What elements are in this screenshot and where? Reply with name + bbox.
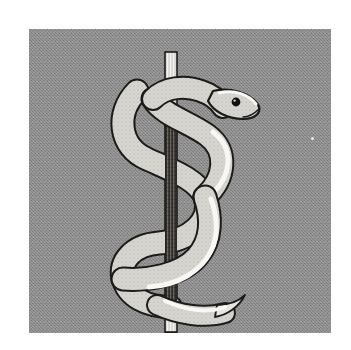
illustration-canvas — [0, 0, 351, 350]
illustration-panel — [29, 29, 331, 333]
rod-of-asclepius-figure — [29, 29, 331, 333]
serpent-eye-glint — [233, 99, 235, 101]
serpent — [122, 52, 259, 332]
serpent-front-segments — [123, 88, 259, 317]
serpent-eye — [232, 98, 241, 107]
paper-speck — [311, 137, 314, 140]
